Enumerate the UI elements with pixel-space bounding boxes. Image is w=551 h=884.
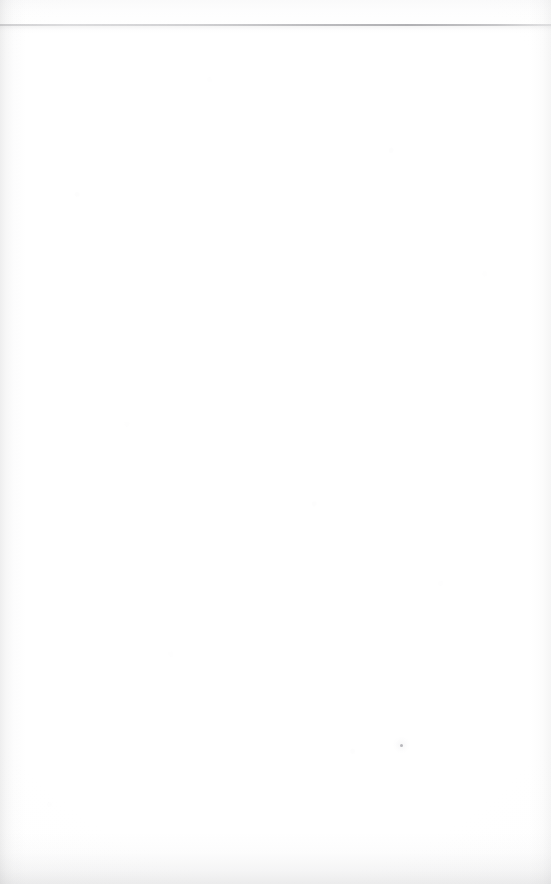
- page-edge-rule-halo: [0, 26, 551, 33]
- left-edge-shadow: [0, 0, 26, 884]
- top-margin-strip: [0, 0, 551, 25]
- bleed-through-smudge-lower: [246, 140, 316, 158]
- dust-speck: [400, 744, 403, 747]
- scanned-page: [0, 0, 551, 884]
- bleed-through-smudge: [232, 98, 328, 122]
- right-edge-shadow: [529, 0, 551, 884]
- paper-surface: [0, 0, 551, 884]
- bottom-edge-shadow: [0, 832, 551, 884]
